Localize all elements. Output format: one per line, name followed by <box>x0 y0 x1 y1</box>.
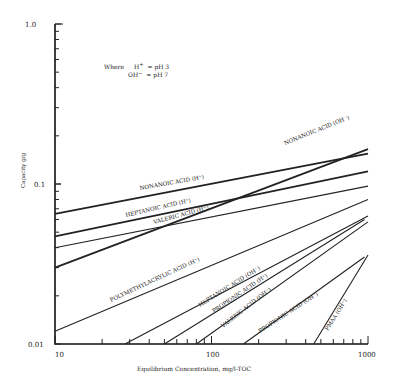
x-tick-label-100: 100 <box>206 351 219 359</box>
series-line-3 <box>55 186 368 248</box>
series-line-1 <box>55 154 368 214</box>
series-label-9: PMAA (OH⁻) <box>324 298 348 332</box>
annotation-where: Where <box>104 63 124 70</box>
y-tick-label-top: 1.0 <box>25 21 36 29</box>
x-tick-label-10: 10 <box>55 351 64 359</box>
x-tick-label-1000: 1000 <box>358 351 376 359</box>
series-label-4: POLYMETHYLACRYLIC ACID (H⁺) <box>109 256 201 303</box>
series-line-4 <box>55 200 368 332</box>
ph-annotation: WhereH+= pH 3 OH−= pH 7 <box>104 61 169 79</box>
series-label-1: NONANOIC ACID (H⁺) <box>139 174 204 191</box>
series-label-8: PROPIONIC ACID (OH⁻) <box>257 291 319 334</box>
adsorption-isotherm-chart: NONANOIC ACID (OH⁻)NONANOIC ACID (H⁺)HEP… <box>0 0 402 383</box>
series-line-0 <box>55 149 368 267</box>
series-lines <box>55 149 368 344</box>
svg-text:WhereH+= pH 3: WhereH+= pH 3 <box>104 61 169 71</box>
series-label-0: NONANOIC ACID (OH⁻) <box>283 114 350 146</box>
series-labels: NONANOIC ACID (OH⁻)NONANOIC ACID (H⁺)HEP… <box>109 114 350 334</box>
y-axis-title: Capacity g/g <box>20 152 27 188</box>
y-tick-label-mid: 0.1 <box>34 181 45 189</box>
y-tick-label-bottom: 0.01 <box>28 341 44 349</box>
x-axis-title: Equilibrium Concentration, mg/l-TOC <box>137 365 251 373</box>
svg-text:OH−= pH 7: OH−= pH 7 <box>128 70 168 79</box>
series-line-2 <box>55 171 368 236</box>
